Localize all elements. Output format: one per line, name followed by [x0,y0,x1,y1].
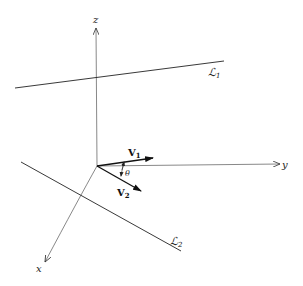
line-l1-label: ℒ1 [208,66,220,80]
angle-theta: θ [121,162,130,178]
theta-label: θ [125,169,130,178]
x-axis: x [36,166,97,274]
vector-v1-label: V1 [127,147,141,160]
line-l2-label: ℒ2 [170,235,183,249]
y-axis-label: y [281,159,288,170]
x-axis-label: x [36,263,42,274]
z-axis-label: z [92,14,99,25]
vector-v2-label: V2 [116,187,130,200]
diagram-canvas: z y x ℒ1 ℒ2 V1 V2 [0,0,303,286]
vector-v1: V1 [97,147,153,166]
line-l1: ℒ1 [15,61,224,88]
line-l2: ℒ2 [21,162,183,251]
vector-v2: V2 [97,166,141,200]
z-axis: z [92,14,99,166]
